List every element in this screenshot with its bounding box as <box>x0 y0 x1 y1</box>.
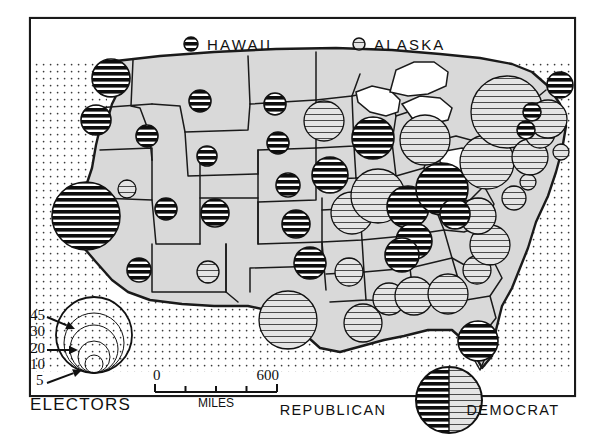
state-symbol-vt: Vermont — 3 electors (republican) <box>517 121 535 139</box>
state-symbol-mn: Minnesota — 10 electors (democrat) <box>304 101 344 141</box>
state-symbol-ok: Oklahoma — 8 electors (republican) <box>294 247 326 279</box>
bottom-legend-band <box>31 372 574 395</box>
state-symbol-tn: Tennessee — 11 electors (republican) <box>385 238 419 272</box>
state-symbol-mi: Michigan — 20 electors (democrat) <box>400 115 450 165</box>
scale-min-label: 0 <box>153 367 161 383</box>
electors-legend-value: 45 <box>30 307 45 323</box>
state-symbol-ri: Rhode Island — 4 electors (democrat) <box>553 144 569 160</box>
state-symbol-ga: Georgia — 12 electors (democrat) <box>428 274 468 314</box>
state-symbol-az: Arizona — 5 electors (republican) <box>127 258 151 282</box>
state-symbol-fl: Florida — 10 electors (republican) <box>458 321 498 361</box>
state-symbol-nd: North Dakota — 4 electors (republican) <box>264 93 286 115</box>
inset-label-text: ALASKA <box>374 36 446 53</box>
state-symbol-wy: Wyoming — 3 electors (republican) <box>197 146 217 166</box>
state-symbol-ks: Kansas — 7 electors (republican) <box>282 210 310 238</box>
state-symbol-mt: Montana — 4 electors (republican) <box>189 90 211 112</box>
scale-unit-label: MILES <box>198 396 234 410</box>
state-symbol-al: Alabama — 11 electors (democrat) <box>395 277 433 315</box>
state-symbol-wv: West Virginia — 8 electors (republican) <box>440 199 470 229</box>
state-symbol-sd: South Dakota — 4 electors (republican) <box>267 132 289 154</box>
map-figure: HAWAIIALASKA Washington — 9 electors (re… <box>0 0 604 446</box>
republican-label: REPUBLICAN <box>280 402 387 418</box>
state-symbol-or: Oregon — 6 electors (republican) <box>81 105 111 135</box>
electors-legend-value: 5 <box>36 372 44 388</box>
electors-legend-value: 20 <box>30 340 45 356</box>
state-symbol-ca: California — 40 electors (republican) <box>52 182 120 250</box>
electors-legend-title: ELECTORS <box>30 395 131 414</box>
state-symbol-ar: Arkansas — 6 electors (democrat) <box>335 258 363 286</box>
state-symbol-me: Maine — 5 electors (republican) <box>547 72 573 98</box>
state-symbol-ia: Iowa — 9 electors (republican) <box>312 157 348 193</box>
electoral-map-svg: HAWAIIALASKA Washington — 9 electors (re… <box>0 0 604 446</box>
electors-legend-value: 30 <box>30 323 45 339</box>
state-symbol-ne: Nebraska — 5 electors (republican) <box>276 173 300 197</box>
state-symbol-id: Idaho — 4 electors (republican) <box>136 125 158 147</box>
party-key-symbol <box>416 367 482 433</box>
party-key <box>416 367 482 433</box>
state-symbol-co: Colorado — 6 electors (republican) <box>201 199 229 227</box>
state-symbol-nv: Nevada — 3 electors (democrat) <box>118 180 136 198</box>
state-symbol-de: Delaware — 3 electors (democrat) <box>520 174 536 190</box>
scale-max-label: 600 <box>257 367 280 383</box>
inset-label-text: HAWAII <box>207 36 272 53</box>
state-symbol-wi: Wisconsin — 12 electors (republican) <box>352 117 394 159</box>
state-symbol-nm: New Mexico — 4 electors (democrat) <box>197 261 219 283</box>
state-symbol-md: Maryland — 9 electors (democrat) <box>502 186 526 210</box>
democrat-label: DEMOCRAT <box>466 402 559 418</box>
state-symbol-tx: Texas — 25 electors (democrat) <box>259 291 317 349</box>
state-symbol-ut: Utah — 4 electors (republican) <box>155 198 177 220</box>
electors-legend-value: 10 <box>30 356 45 372</box>
state-symbol-nh: New Hampshire — 4 electors (republican) <box>523 103 541 121</box>
state-symbol-wa: Washington — 9 electors (republican) <box>92 59 130 97</box>
